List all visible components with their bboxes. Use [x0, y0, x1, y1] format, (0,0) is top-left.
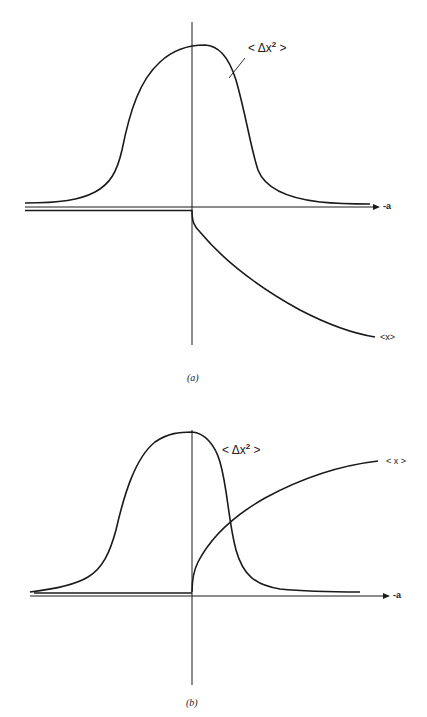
panel-b-caption: (b) — [186, 697, 198, 708]
panel-a — [25, 22, 380, 345]
panel-a-mean-curve — [192, 210, 375, 337]
panel-b-variance-label: < Δx2 > — [222, 442, 261, 457]
panel-a-axis-arrow-icon — [373, 204, 380, 210]
panel-a-variance-label: < Δx2 > — [248, 40, 287, 55]
panel-b-axis-label: -a — [393, 590, 401, 600]
panel-a-variance-curve — [25, 45, 370, 204]
variance-label-close: > — [250, 443, 260, 457]
variance-label-close: > — [276, 41, 286, 55]
panel-a-caption: (a) — [187, 372, 199, 383]
panel-b-mean-curve — [192, 461, 378, 592]
figure-canvas — [0, 0, 427, 717]
panel-a-axis-label: -a — [383, 201, 391, 211]
variance-label-text: < Δx — [222, 443, 246, 457]
panel-b — [30, 430, 390, 685]
variance-label-text: < Δx — [248, 41, 272, 55]
panel-b-mean-label: < x > — [386, 456, 406, 466]
panel-b-axis-arrow-icon — [383, 593, 390, 599]
panel-a-mean-label: <x> — [380, 332, 395, 342]
